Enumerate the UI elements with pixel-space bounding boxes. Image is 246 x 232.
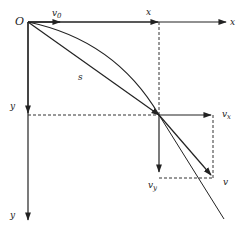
y-axis-label: y xyxy=(9,210,16,220)
v-arrow xyxy=(159,115,211,175)
y-mid-label: y xyxy=(9,101,16,111)
projectile-diagram: O v0 x x y y s vx vy v xyxy=(0,0,246,232)
origin-label: O xyxy=(15,15,24,28)
displacement-s xyxy=(28,22,159,115)
s-label: s xyxy=(78,72,83,82)
tangent-line xyxy=(159,115,224,219)
vy-label: vy xyxy=(148,180,158,192)
v-label: v xyxy=(223,177,228,187)
v0-label: v0 xyxy=(52,8,62,20)
x-mid-label: x xyxy=(146,7,151,17)
vx-label: vx xyxy=(222,109,231,121)
x-axis-label: x xyxy=(230,17,235,27)
